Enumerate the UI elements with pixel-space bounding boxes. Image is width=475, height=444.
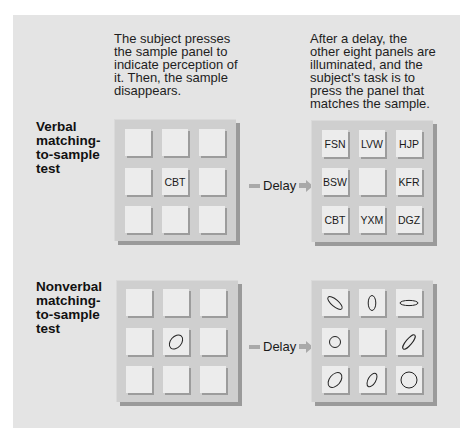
choice-panel[interactable] (359, 366, 385, 393)
panel[interactable] (125, 129, 151, 156)
panel[interactable] (200, 328, 226, 355)
choice-panel[interactable]: BSW (322, 168, 348, 195)
choice-panel[interactable] (322, 328, 348, 355)
panel[interactable] (162, 129, 188, 156)
panel[interactable] (126, 328, 152, 355)
panel[interactable] (163, 289, 189, 316)
nonverbal-test-label: Nonverbal matching-to-sample test (36, 280, 116, 336)
empty-panel[interactable] (359, 328, 385, 355)
panel[interactable] (126, 289, 152, 316)
choice-panel[interactable]: KFR (396, 168, 422, 195)
choice-panel[interactable]: FSN (322, 130, 348, 157)
panel[interactable] (163, 366, 189, 393)
circle-large-icon (397, 368, 421, 392)
empty-panel[interactable] (359, 168, 385, 195)
panel[interactable] (199, 206, 225, 233)
choice-panel[interactable]: HJP (396, 130, 422, 157)
delay-bar-icon (249, 184, 260, 188)
sample-panel[interactable]: CBT (162, 168, 188, 195)
choice-panel[interactable] (359, 289, 385, 316)
ellipse-narrow-tilted-right-icon (397, 330, 421, 354)
nonverbal-choice-board (311, 280, 433, 402)
delay-label: Delay (263, 339, 296, 354)
ellipse-diagonal-down-icon (323, 291, 347, 315)
caption-choice-step: After a delay, the other eight panels ar… (310, 32, 440, 110)
choice-panel[interactable] (396, 328, 422, 355)
circle-small-icon (323, 330, 347, 354)
ellipse-narrow-tilted-right-small-icon (360, 368, 384, 392)
ellipse-tilted-right-icon (323, 368, 347, 392)
choice-panel[interactable]: LVW (359, 130, 385, 157)
ellipse-horizontal-flat-icon (397, 291, 421, 315)
choice-panel[interactable]: DGZ (396, 206, 422, 233)
panel[interactable] (125, 168, 151, 195)
choice-panel[interactable] (322, 366, 348, 393)
panel[interactable] (199, 168, 225, 195)
choice-panel[interactable] (396, 366, 422, 393)
sample-panel[interactable] (163, 328, 189, 355)
panel[interactable] (200, 289, 226, 316)
panel[interactable] (199, 129, 225, 156)
verbal-choice-board: FSN LVW HJP BSW KFR CBT YXM DGZ (311, 120, 433, 242)
delay-label: Delay (263, 178, 296, 193)
choice-panel[interactable] (322, 289, 348, 316)
ellipse-vertical-icon (360, 291, 384, 315)
nonverbal-sample-board (116, 280, 238, 402)
choice-panel[interactable]: CBT (322, 206, 348, 233)
caption-sample-step: The subject presses the sample panel to … (114, 32, 244, 97)
panel[interactable] (126, 366, 152, 393)
panel[interactable] (200, 366, 226, 393)
choice-panel[interactable]: YXM (359, 206, 385, 233)
panel[interactable] (125, 206, 151, 233)
delay-arrow-verbal: Delay (249, 178, 313, 193)
choice-panel[interactable] (396, 289, 422, 316)
ellipse-tilted-right-icon (165, 331, 187, 353)
delay-bar-icon (249, 345, 260, 349)
delay-arrow-nonverbal: Delay (249, 339, 313, 354)
verbal-sample-board: CBT (114, 119, 236, 241)
panel[interactable] (162, 206, 188, 233)
verbal-test-label: Verbal matching-to-sample test (36, 120, 116, 176)
